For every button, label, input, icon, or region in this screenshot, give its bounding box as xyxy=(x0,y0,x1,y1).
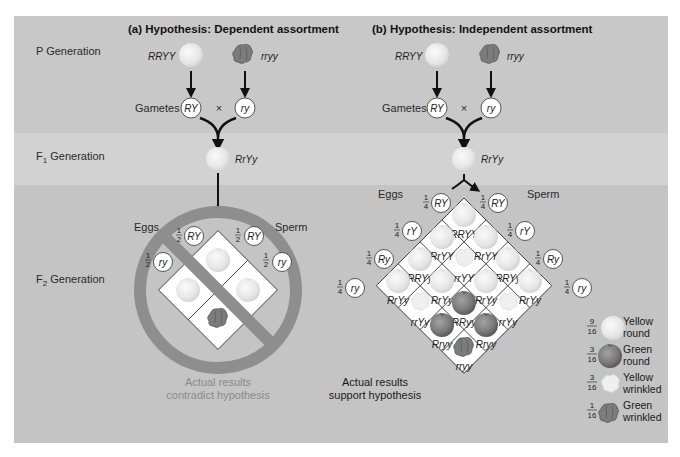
punnett-cell-genotype: Rryy xyxy=(432,339,454,350)
gamete-ry-dominant: RY xyxy=(184,103,199,114)
svg-text:ry: ry xyxy=(159,257,168,268)
punnett-cell-genotype: RrYy xyxy=(387,295,410,306)
svg-text:1: 1 xyxy=(177,226,182,235)
svg-text:9: 9 xyxy=(590,317,595,326)
row-label-p: P Generation xyxy=(36,45,101,57)
punnett-cell-genotype: RRYy xyxy=(407,273,434,284)
f1-genotype: RrYy xyxy=(235,154,258,165)
punnett-cell-genotype: Rryy xyxy=(476,339,498,350)
egg-gamete: 1 4 RY xyxy=(423,193,451,213)
cross-symbol: × xyxy=(216,102,222,114)
svg-text:Ry: Ry xyxy=(378,254,391,265)
svg-text:1: 1 xyxy=(264,251,269,260)
svg-text:1: 1 xyxy=(481,193,486,202)
sperm-gamete: 1 2 RY xyxy=(235,226,264,246)
gamete-ry-dominant: RY xyxy=(430,103,445,114)
gametes-label: Gametes xyxy=(135,102,180,114)
svg-text:1: 1 xyxy=(236,226,241,235)
egg-gamete: 1 4 rY xyxy=(394,221,422,241)
svg-text:1: 1 xyxy=(508,221,513,230)
punnett-cell-pea-icon xyxy=(500,293,518,311)
punnett-cell-genotype: RrYY xyxy=(430,251,455,262)
svg-text:Green: Green xyxy=(623,399,652,411)
svg-text:round: round xyxy=(623,327,650,339)
sperm-gamete: 1 4 ry xyxy=(564,278,592,298)
punnett-cell-pea-icon xyxy=(518,269,542,293)
sperm-label: Sperm xyxy=(275,221,307,233)
svg-text:1: 1 xyxy=(395,221,400,230)
sperm-gamete: 1 4 Ry xyxy=(535,249,563,269)
svg-text:2: 2 xyxy=(146,260,151,269)
svg-text:round: round xyxy=(623,355,650,367)
svg-text:4: 4 xyxy=(481,202,486,211)
punnett-cell-yellow-round xyxy=(176,278,200,302)
svg-text:16: 16 xyxy=(588,411,597,420)
svg-text:16: 16 xyxy=(588,355,597,364)
punnett-cell-pea-icon xyxy=(474,225,498,249)
f1-genotype: RrYy xyxy=(481,154,504,165)
punnett-cell-pea-icon xyxy=(456,249,474,267)
egg-gamete: 1 4 ry xyxy=(337,278,365,298)
green-round-pea-icon xyxy=(598,344,622,368)
svg-text:4: 4 xyxy=(367,258,372,267)
punnett-cell-pea-icon xyxy=(412,293,430,311)
yellow-round-pea-icon xyxy=(179,43,203,67)
svg-text:4: 4 xyxy=(565,287,570,296)
svg-text:4: 4 xyxy=(395,230,400,239)
punnett-cell-genotype: rrYY xyxy=(454,273,475,284)
f1-pea-icon xyxy=(452,147,476,171)
svg-text:1: 1 xyxy=(590,401,595,410)
svg-text:ry: ry xyxy=(278,257,287,268)
svg-text:Yellow: Yellow xyxy=(623,371,653,383)
svg-text:Yellow: Yellow xyxy=(623,315,653,327)
svg-text:wrinkled: wrinkled xyxy=(622,383,662,395)
parent1-genotype: RRYY xyxy=(395,51,424,62)
gamete-ry-recessive: ry xyxy=(487,103,496,114)
result-b-line1: Actual results xyxy=(342,376,409,388)
punnett-cell-genotype: RrYy xyxy=(431,295,454,306)
svg-text:2: 2 xyxy=(236,235,241,244)
svg-text:rY: rY xyxy=(407,226,418,237)
yellow-round-pea-icon xyxy=(425,43,449,67)
panel-a-title: (a) Hypothesis: Dependent assortment xyxy=(128,23,339,35)
f1-band xyxy=(14,133,668,185)
svg-text:RY: RY xyxy=(187,231,202,242)
eggs-label: Eggs xyxy=(134,221,160,233)
sperm-gamete: 1 4 RY xyxy=(480,193,508,213)
svg-text:16: 16 xyxy=(588,327,597,336)
punnett-cell-genotype: RrYY xyxy=(474,251,499,262)
punnett-cell-genotype: RRyy xyxy=(452,317,477,328)
svg-text:16: 16 xyxy=(588,383,597,392)
parent1-genotype: RRYY xyxy=(148,51,177,62)
svg-text:1: 1 xyxy=(424,193,429,202)
yellow-round-pea-icon xyxy=(601,316,625,340)
punnett-cell-genotype: RrYy xyxy=(475,295,498,306)
punnett-cell-pea-icon xyxy=(452,291,476,315)
panel-b-title: (b) Hypothesis: Independent assortment xyxy=(372,23,593,35)
punnett-cell-pea-icon xyxy=(430,269,454,293)
svg-text:ry: ry xyxy=(351,283,360,294)
punnett-cell-genotype: RRYy xyxy=(495,273,522,284)
gametes-label: Gametes xyxy=(382,102,427,114)
svg-text:4: 4 xyxy=(338,287,343,296)
svg-text:3: 3 xyxy=(590,373,595,382)
gamete-ry-recessive: ry xyxy=(241,103,250,114)
svg-text:1: 1 xyxy=(565,278,570,287)
svg-text:4: 4 xyxy=(424,202,429,211)
svg-text:4: 4 xyxy=(508,230,513,239)
punnett-cell-genotype: RrYy xyxy=(519,295,542,306)
punnett-cell-pea-icon xyxy=(452,203,476,227)
punnett-cell-pea-icon xyxy=(474,313,498,337)
punnett-cell-pea-icon xyxy=(430,313,454,337)
egg-gamete: 1 2 RY xyxy=(176,226,204,246)
svg-text:2: 2 xyxy=(264,260,269,269)
punnett-cell-pea-icon xyxy=(430,225,454,249)
punnett-cell-pea-icon xyxy=(386,269,410,293)
punnett-cell-yellow-round xyxy=(206,248,230,272)
svg-text:wrinkled: wrinkled xyxy=(622,411,662,423)
svg-text:1: 1 xyxy=(367,249,372,258)
result-a-line1: Actual results xyxy=(185,376,252,388)
svg-text:Ry: Ry xyxy=(547,254,560,265)
punnett-cell-genotype: rrYy xyxy=(411,317,430,328)
dihybrid-cross-figure: P Generation F1 Generation F2 Generation… xyxy=(0,0,680,457)
